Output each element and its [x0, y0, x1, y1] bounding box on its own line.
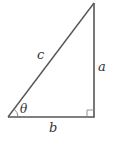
right-triangle-diagram: c a b θ — [0, 0, 115, 142]
angle-arc — [14, 109, 18, 117]
side-c-hypotenuse — [8, 3, 94, 117]
label-side-b: b — [49, 120, 57, 135]
label-side-a: a — [98, 59, 106, 74]
right-angle-marker — [87, 110, 94, 117]
label-hypotenuse-c: c — [37, 47, 45, 62]
label-angle-theta: θ — [20, 102, 28, 116]
